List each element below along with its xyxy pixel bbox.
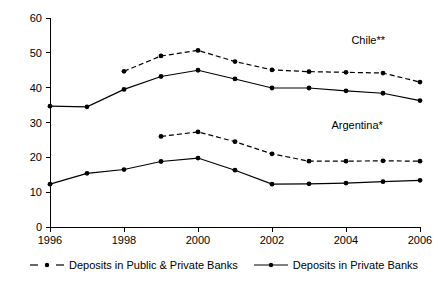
data-point	[159, 74, 164, 79]
data-point	[418, 98, 423, 103]
data-point	[85, 104, 90, 109]
series-0	[122, 48, 423, 85]
series-annotation-label: Chile**	[351, 34, 385, 46]
legend-solid-swatch	[254, 260, 288, 270]
data-point	[344, 88, 349, 93]
data-point	[307, 69, 312, 74]
y-tick-label: 0	[36, 221, 42, 233]
series-annotation-label: Argentina*	[331, 119, 383, 131]
data-point	[196, 68, 201, 73]
data-point	[233, 59, 238, 64]
data-point	[418, 80, 423, 85]
data-point	[196, 48, 201, 53]
data-point	[85, 171, 90, 176]
data-point	[344, 70, 349, 75]
legend-item-private[interactable]: Deposits in Private Banks	[254, 259, 418, 271]
legend-label-private: Deposits in Private Banks	[293, 259, 418, 271]
series-1	[48, 68, 423, 109]
y-tick-label: 20	[30, 151, 42, 163]
data-point	[270, 151, 275, 156]
data-point	[270, 86, 275, 91]
data-point	[233, 168, 238, 173]
legend-dashed-swatch	[30, 260, 64, 270]
series-annotation-group: Chile**Argentina*	[331, 34, 385, 131]
y-axis-tick-group: 0102030405060	[30, 12, 50, 233]
x-tick-label: 2002	[260, 234, 284, 246]
data-point	[381, 158, 386, 163]
data-point	[270, 68, 275, 73]
data-point	[418, 159, 423, 164]
data-point	[307, 86, 312, 91]
data-point	[122, 87, 127, 92]
x-axis-tick-group: 199619982000200220042006	[38, 227, 432, 246]
y-tick-label: 10	[30, 186, 42, 198]
y-tick-label: 40	[30, 82, 42, 94]
y-tick-label: 50	[30, 47, 42, 59]
data-point	[233, 139, 238, 144]
data-point	[270, 182, 275, 187]
data-point	[159, 54, 164, 59]
chart-figure: 0102030405060 199619982000200220042006 C…	[0, 0, 448, 282]
data-point	[344, 159, 349, 164]
x-tick-label: 2000	[186, 234, 210, 246]
data-point	[418, 178, 423, 183]
data-point	[196, 130, 201, 135]
data-point	[381, 71, 386, 76]
series-3	[48, 156, 423, 187]
x-tick-label: 2004	[334, 234, 358, 246]
data-point	[307, 159, 312, 164]
data-point	[122, 167, 127, 172]
data-point	[48, 104, 53, 109]
data-point	[159, 134, 164, 139]
data-point	[48, 182, 53, 187]
data-series-group	[48, 48, 423, 187]
data-point	[307, 181, 312, 186]
data-point	[381, 179, 386, 184]
series-line	[124, 50, 420, 82]
data-point	[196, 156, 201, 161]
x-tick-label: 1998	[112, 234, 136, 246]
x-tick-label: 1996	[38, 234, 62, 246]
data-point	[233, 77, 238, 82]
legend-item-public-private[interactable]: Deposits in Public & Private Banks	[30, 259, 238, 271]
data-point	[381, 91, 386, 96]
series-line	[50, 70, 420, 107]
data-point	[159, 159, 164, 164]
line-chart-plot: 0102030405060 199619982000200220042006 C…	[0, 0, 448, 282]
y-tick-label: 60	[30, 12, 42, 24]
x-tick-label: 2006	[408, 234, 432, 246]
y-tick-label: 30	[30, 117, 42, 129]
legend-label-public-private: Deposits in Public & Private Banks	[69, 259, 238, 271]
data-point	[344, 181, 349, 186]
data-point	[122, 69, 127, 74]
chart-legend: Deposits in Public & Private Banks Depos…	[0, 259, 448, 271]
